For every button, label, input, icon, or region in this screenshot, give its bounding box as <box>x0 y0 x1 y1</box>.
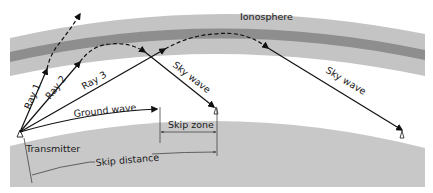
ground-wave-label: Ground wave <box>73 101 137 119</box>
receiver-2-icon <box>400 131 404 138</box>
skip-zone-label: Skip zone <box>168 119 214 130</box>
transmitter-label: Transmitter <box>25 143 80 154</box>
ionosphere-label: Ionosphere <box>240 11 293 22</box>
ray-3-label: Ray 3 <box>80 69 109 92</box>
ray-1-label: Ray 1 <box>22 82 43 111</box>
ray-2-label: Ray 2 <box>43 73 68 101</box>
sky-wave-2-label: Sky wave <box>324 64 368 97</box>
propagation-diagram: Ionosphere Transmitter Ray 1 Ray 2 Ray 3… <box>0 0 433 193</box>
